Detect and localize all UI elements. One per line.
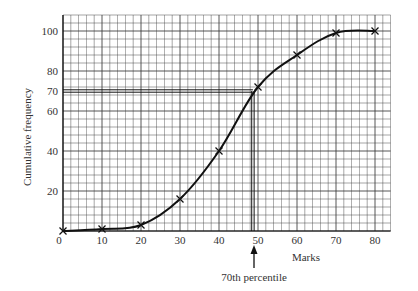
x-tick-label: 80	[370, 234, 382, 246]
percentile-annotation: 70th percentile	[221, 271, 287, 283]
x-tick-label: 20	[136, 234, 148, 246]
x-tick-label: 70	[331, 234, 343, 246]
x-tick-label: 50	[253, 234, 265, 246]
percentile-arrow	[251, 245, 258, 268]
grid	[63, 15, 391, 231]
y-tick-label: 80	[47, 65, 59, 77]
x-tick-label: 40	[214, 234, 226, 246]
x-tick-label: 30	[175, 234, 187, 246]
y-tick-label: 70	[47, 85, 59, 97]
y-axis-label: Cumulative frequency	[21, 87, 33, 186]
y-tick-label: 100	[42, 25, 59, 37]
cumulative-frequency-chart: 01020304050607080 2040607080100 Marks Cu…	[0, 0, 418, 291]
y-tick-label: 60	[47, 105, 59, 117]
x-axis-ticks: 01020304050607080	[56, 234, 381, 246]
x-axis-label: Marks	[292, 251, 320, 263]
y-tick-label: 20	[47, 185, 59, 197]
x-tick-label: 10	[97, 234, 109, 246]
y-tick-label: 40	[47, 145, 59, 157]
x-tick-label: 0	[56, 234, 62, 246]
y-axis-ticks: 2040607080100	[42, 25, 59, 197]
x-tick-label: 60	[292, 234, 304, 246]
arrow-up-icon	[251, 245, 258, 254]
